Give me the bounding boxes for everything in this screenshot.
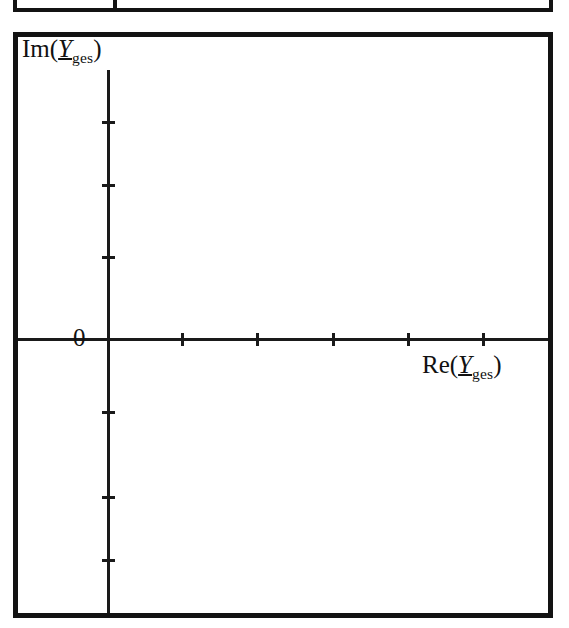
x-axis-label-prefix: Re( bbox=[422, 351, 458, 378]
y-axis-label-subscript: ges bbox=[72, 49, 93, 66]
page-canvas: Im(Yges) Re(Yges) 0 bbox=[0, 0, 569, 628]
y-axis-tick bbox=[102, 184, 115, 187]
x-axis-label-subscript: ges bbox=[472, 365, 493, 382]
x-axis-label-variable: Y bbox=[458, 351, 472, 378]
table-column-divider bbox=[113, 0, 117, 8]
imaginary-axis bbox=[107, 70, 110, 613]
y-axis-tick bbox=[102, 256, 115, 259]
x-axis-tick bbox=[407, 333, 410, 346]
real-axis bbox=[18, 338, 548, 341]
clipped-table-above bbox=[13, 0, 553, 12]
y-axis-label: Im(Yges) bbox=[22, 36, 102, 66]
x-axis-tick bbox=[482, 333, 485, 346]
plot-drawing-area: Im(Yges) Re(Yges) 0 bbox=[18, 37, 548, 613]
y-axis-label-prefix: Im( bbox=[22, 35, 58, 62]
origin-label: 0 bbox=[73, 325, 86, 351]
x-axis-tick bbox=[181, 333, 184, 346]
y-axis-tick bbox=[102, 559, 115, 562]
complex-plane-plot-frame: Im(Yges) Re(Yges) 0 bbox=[13, 32, 553, 618]
y-axis-tick bbox=[102, 411, 115, 414]
y-axis-tick bbox=[102, 496, 115, 499]
y-axis-label-suffix: ) bbox=[93, 35, 101, 62]
x-axis-tick bbox=[332, 333, 335, 346]
y-axis-label-variable: Y bbox=[58, 35, 72, 62]
x-axis-label-suffix: ) bbox=[493, 351, 501, 378]
y-axis-tick bbox=[102, 121, 115, 124]
x-axis-label: Re(Yges) bbox=[422, 352, 502, 382]
x-axis-tick bbox=[256, 333, 259, 346]
